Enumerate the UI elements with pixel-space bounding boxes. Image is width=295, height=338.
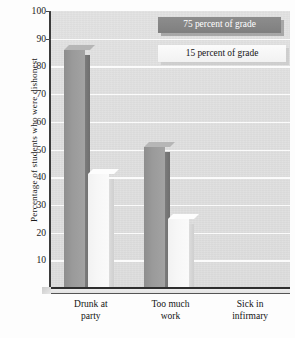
legend-label-75-percent: 75 percent of grade bbox=[158, 20, 281, 29]
x-axis-line bbox=[42, 287, 290, 289]
bar-too-much-work-series-1 bbox=[144, 147, 165, 288]
x-axis-label-line: infirmary bbox=[207, 311, 293, 323]
y-axis-tick-90: 90 bbox=[20, 34, 46, 44]
bar-top-face bbox=[144, 142, 175, 147]
bar-front-face bbox=[168, 219, 189, 288]
bar-side-face bbox=[189, 224, 194, 288]
x-axis-label-line: party bbox=[48, 311, 134, 323]
legend-item-15-percent: 15 percent of grade bbox=[158, 45, 286, 62]
axis-base-left-bevel bbox=[42, 287, 51, 294]
x-axis-label-line: Too much bbox=[128, 299, 214, 311]
y-axis-tick-30: 30 bbox=[20, 200, 46, 210]
bar-drunk-at-party-series-1 bbox=[64, 50, 85, 288]
bar-top-face bbox=[168, 214, 199, 219]
y-axis-line bbox=[49, 11, 51, 292]
y-tick-mark-90 bbox=[46, 39, 51, 40]
x-axis-label-sick-in-infirmary: Sick ininfirmary bbox=[207, 299, 293, 322]
bar-chart-figure: Percentage of students who were dishones… bbox=[0, 0, 295, 338]
bar-side-face bbox=[109, 179, 114, 288]
y-axis-tick-80: 80 bbox=[20, 61, 46, 71]
y-axis-tick-100: 100 bbox=[20, 6, 46, 16]
y-axis-tick-50: 50 bbox=[20, 145, 46, 155]
x-axis-label-too-much-work: Too muchwork bbox=[128, 299, 214, 322]
y-axis-tick-60: 60 bbox=[20, 117, 46, 127]
bar-front-face bbox=[88, 174, 109, 288]
x-axis-label-line: work bbox=[128, 311, 214, 323]
bar-top-face bbox=[64, 45, 95, 50]
gridline-90 bbox=[51, 39, 290, 40]
bar-front-face bbox=[64, 50, 85, 288]
x-axis-label-line: Drunk at bbox=[48, 299, 134, 311]
x-axis-label-line: Sick in bbox=[207, 299, 293, 311]
x-axis-label-drunk-at-party: Drunk atparty bbox=[48, 299, 134, 322]
legend-label-15-percent: 15 percent of grade bbox=[158, 49, 286, 58]
x-axis-front-edge bbox=[49, 293, 290, 294]
bar-front-face bbox=[144, 147, 165, 288]
y-tick-mark-100 bbox=[46, 11, 51, 12]
bar-too-much-work-series-2 bbox=[168, 219, 189, 288]
y-axis-tick-70: 70 bbox=[20, 89, 46, 99]
legend-item-75-percent: 75 percent of grade bbox=[158, 17, 281, 33]
y-axis-tick-40: 40 bbox=[20, 172, 46, 182]
y-axis-tick-10: 10 bbox=[20, 255, 46, 265]
y-axis-tick-20: 20 bbox=[20, 228, 46, 238]
bar-drunk-at-party-series-2 bbox=[88, 174, 109, 288]
